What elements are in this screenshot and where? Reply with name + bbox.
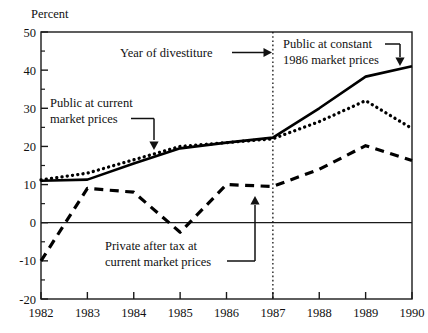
y-tick-label: 20 — [24, 140, 37, 154]
y-tick-label: 30 — [24, 102, 37, 116]
y-tick-label: 40 — [24, 64, 37, 78]
x-axis-ticks: 198219831984198519861987198819891990 — [29, 292, 425, 320]
y-tick-label: -10 — [19, 254, 36, 268]
x-tick-label: 1987 — [260, 306, 285, 320]
chart-figure: Percent 50403020100-10-20 19821983198419… — [0, 0, 428, 333]
y-tick-label: 0 — [30, 216, 36, 230]
y-tick-label: 10 — [24, 178, 37, 192]
y-axis-title: Percent — [31, 7, 69, 21]
annotation-public-current-line2: market prices — [50, 112, 118, 126]
annotation-private-line1: Private after tax at — [105, 239, 197, 253]
y-tick-label: -20 — [19, 293, 36, 307]
y-tick-label: 50 — [24, 26, 37, 40]
x-tick-label: 1990 — [400, 306, 425, 320]
annotation-public-constant-line1: Public at constant — [283, 37, 372, 51]
x-tick-label: 1989 — [353, 306, 378, 320]
x-tick-label: 1983 — [75, 306, 100, 320]
chart-canvas: Percent 50403020100-10-20 19821983198419… — [0, 0, 428, 333]
annotation-divestiture-label: Year of divestiture — [120, 46, 213, 60]
x-tick-label: 1985 — [168, 306, 193, 320]
x-tick-label: 1984 — [121, 306, 147, 320]
annotation-private-line2: current market prices — [105, 255, 211, 269]
x-tick-label: 1986 — [214, 306, 239, 320]
annotation-public-constant-line2: 1986 market prices — [283, 53, 379, 67]
x-tick-label: 1988 — [307, 306, 332, 320]
annotation-public-current-line1: Public at current — [50, 96, 133, 110]
x-tick-label: 1982 — [29, 306, 54, 320]
